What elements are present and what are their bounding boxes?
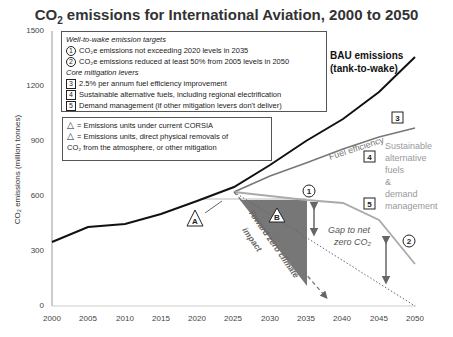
lever-5-icon: 5 xyxy=(66,101,76,111)
svg-text:A: A xyxy=(192,217,198,226)
svg-text:4: 4 xyxy=(367,153,372,162)
legend-targets-levers: Well-to-wake emission targets 1CO₂e emis… xyxy=(61,31,327,112)
triangle-b-icon: △ xyxy=(67,131,74,142)
lever-3-icon: 3 xyxy=(66,79,76,89)
fuel-efficiency-label: Fuel efficiency xyxy=(328,135,386,162)
saf-demand-label: Sustainable alternative fuels & demand m… xyxy=(385,140,438,212)
svg-text:1: 1 xyxy=(307,187,312,196)
svg-text:B: B xyxy=(274,213,280,222)
svg-text:2: 2 xyxy=(407,237,412,246)
legend-emission-units: △= Emissions units under current CORSIA … xyxy=(62,117,272,161)
triangle-a-icon: △ xyxy=(67,120,74,131)
target-1-icon: 1 xyxy=(66,46,76,56)
target-2-icon: 2 xyxy=(66,57,76,67)
gap-to-net-zero-label: Gap to net zero CO₂ xyxy=(328,224,371,248)
svg-text:3: 3 xyxy=(395,114,400,123)
lever-4-icon: 4 xyxy=(66,90,76,100)
marker-a-pointer xyxy=(205,201,222,213)
bau-label: BAU emissions (tank-to-wake) xyxy=(330,49,403,75)
svg-text:5: 5 xyxy=(367,200,372,209)
